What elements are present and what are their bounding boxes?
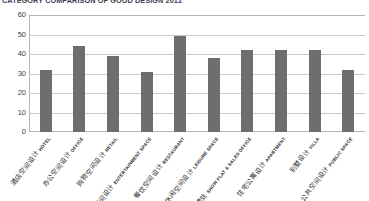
- y-axis-tick-label: 10: [2, 109, 26, 117]
- bar[interactable]: [241, 50, 253, 132]
- bar-chart: CATEGORY COMPARISON OF GOOD DESIGN 2012 …: [0, 0, 369, 201]
- bar[interactable]: [141, 72, 153, 132]
- bar-slot: [163, 15, 197, 132]
- y-axis: 6050403020100: [0, 15, 26, 132]
- x-axis-label-slot: 公共空间设计PUBLIC SPACE: [331, 133, 365, 201]
- x-label-english: APARTMENT: [264, 136, 286, 163]
- bar-slot: [130, 15, 164, 132]
- y-axis-tick-label: 60: [2, 11, 26, 19]
- bar-slot: [331, 15, 365, 132]
- bar-slot: [29, 15, 63, 132]
- x-label-chinese: 酒店空间设计: [9, 149, 41, 187]
- y-axis-tick-label: 0: [2, 128, 26, 136]
- bar[interactable]: [40, 70, 52, 132]
- bar[interactable]: [107, 56, 119, 132]
- bar[interactable]: [73, 46, 85, 132]
- x-label-english: PUBLIC SPACE: [328, 136, 354, 167]
- bar[interactable]: [208, 58, 220, 132]
- bar[interactable]: [275, 50, 287, 132]
- x-label-english: VILLA: [308, 136, 321, 150]
- x-label-english: RESTAURANT: [162, 136, 186, 165]
- y-axis-tick-label: 20: [2, 89, 26, 97]
- bar-slot: [96, 15, 130, 132]
- bar[interactable]: [174, 36, 186, 132]
- x-axis-labels: 酒店空间设计HOTEL办公空间设计OFFICE购物空间设计RETAIL娱乐空间设…: [29, 133, 365, 201]
- bar-slot: [197, 15, 231, 132]
- bar-slot: [63, 15, 97, 132]
- bars-layer: [29, 15, 365, 132]
- bar-slot: [264, 15, 298, 132]
- bar-slot: [298, 15, 332, 132]
- x-label-english: RETAIL: [104, 136, 119, 153]
- y-axis-tick-label: 50: [2, 31, 26, 39]
- bar-slot: [231, 15, 265, 132]
- y-axis-tick-label: 40: [2, 50, 26, 58]
- x-label-english: HOTEL: [37, 136, 51, 152]
- x-label-english: OFFICE: [70, 136, 85, 153]
- y-axis-tick-label: 30: [2, 70, 26, 78]
- chart-title: CATEGORY COMPARISON OF GOOD DESIGN 2012: [2, 0, 182, 5]
- bar[interactable]: [309, 50, 321, 132]
- bar[interactable]: [342, 70, 354, 132]
